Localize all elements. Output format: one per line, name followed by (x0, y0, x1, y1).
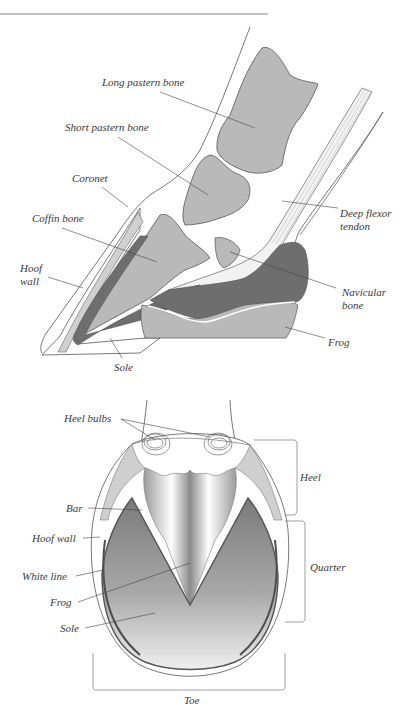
label-bar: Bar (66, 502, 83, 514)
label-sole-side: Sole (114, 361, 133, 373)
label-coronet: Coronet (72, 172, 108, 184)
label-frog-side: Frog (328, 336, 350, 348)
label-long-pastern-bone: Long pastern bone (102, 76, 185, 88)
label-frog-bottom: Frog (50, 596, 72, 608)
label-hoof-wall-line2: wall (20, 275, 39, 287)
label-navicular-line1: Navicular (342, 286, 386, 298)
label-region-quarter: Quarter (310, 561, 345, 573)
label-region-heel: Heel (300, 471, 321, 483)
label-deep-flexor-line1: Deep flexor (340, 207, 392, 219)
label-hoof-wall-line1: Hoof (20, 262, 42, 274)
label-hoof-wall-bottom: Hoof wall (32, 532, 76, 544)
side-view (41, 27, 383, 358)
navicular-bone (215, 238, 240, 269)
label-navicular-line2: bone (342, 299, 363, 311)
long-pastern-bone (217, 47, 318, 173)
bottom-view (76, 400, 305, 690)
hoof-anatomy-diagram (0, 0, 404, 718)
label-coffin-bone: Coffin bone (32, 212, 84, 224)
label-sole-bottom: Sole (60, 622, 79, 634)
label-deep-flexor-line2: tendon (340, 220, 370, 232)
label-region-toe: Toe (184, 694, 200, 706)
label-short-pastern-bone: Short pastern bone (65, 121, 149, 133)
label-white-line: White line (22, 570, 67, 582)
label-heel-bulbs: Heel bulbs (64, 412, 111, 424)
